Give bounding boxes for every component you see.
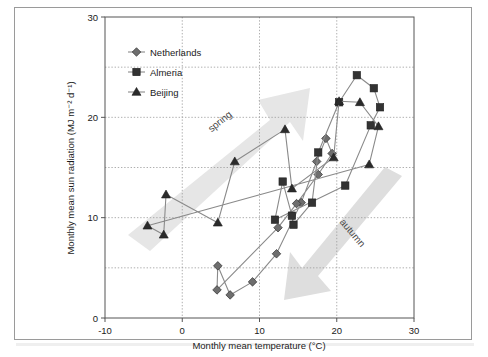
spring-arrow bbox=[128, 88, 310, 251]
legend-label-almeria: Almeria bbox=[150, 67, 183, 78]
data-point-square bbox=[279, 178, 286, 185]
data-point-square bbox=[353, 71, 360, 78]
x-tick-label: 10 bbox=[254, 325, 265, 336]
x-tick-label: 0 bbox=[180, 325, 185, 336]
y-axis-label: Monthly mean sun radiation (MJ m⁻² d⁻¹) bbox=[65, 81, 76, 254]
data-point-square bbox=[308, 199, 315, 206]
chart-container: 0102030-100102030 NetherlandsAlmeriaBeij… bbox=[0, 0, 488, 357]
scatter-chart: 0102030-100102030 NetherlandsAlmeriaBeij… bbox=[0, 0, 488, 357]
spring-arrow-label: spring bbox=[206, 108, 234, 134]
x-tick-label: 30 bbox=[409, 325, 420, 336]
chart-legend: NetherlandsAlmeriaBeijing bbox=[128, 47, 201, 98]
x-axis-label: Monthly mean temperature (°C) bbox=[192, 340, 325, 351]
data-point-square bbox=[376, 104, 383, 111]
data-point-square bbox=[370, 85, 377, 92]
x-tick-label: 20 bbox=[331, 325, 342, 336]
data-point-square bbox=[271, 216, 278, 223]
legend-marker-square bbox=[133, 68, 140, 75]
legend-marker-triangle bbox=[132, 87, 141, 95]
data-point-square bbox=[290, 221, 297, 228]
data-point-triangle bbox=[213, 218, 222, 226]
legend-label-beijing: Beijing bbox=[150, 87, 179, 98]
data-point-triangle bbox=[162, 190, 171, 198]
legend-label-netherlands: Netherlands bbox=[150, 47, 201, 58]
figure-page: 0102030-100102030 NetherlandsAlmeriaBeij… bbox=[0, 0, 488, 357]
data-point-diamond bbox=[226, 291, 235, 300]
y-tick-label: 20 bbox=[87, 112, 98, 123]
tick-labels: 0102030-100102030 bbox=[87, 12, 419, 337]
y-tick-label: 10 bbox=[87, 212, 98, 223]
legend-marker-diamond bbox=[132, 48, 141, 57]
data-point-triangle bbox=[365, 160, 374, 168]
y-tick-label: 0 bbox=[93, 313, 98, 324]
data-point-square bbox=[288, 212, 295, 219]
data-point-square bbox=[315, 149, 322, 156]
data-point-square bbox=[342, 182, 349, 189]
data-point-square bbox=[367, 122, 374, 129]
y-tick-label: 30 bbox=[87, 12, 98, 23]
x-tick-label: -10 bbox=[98, 325, 112, 336]
data-point-diamond bbox=[213, 262, 222, 271]
